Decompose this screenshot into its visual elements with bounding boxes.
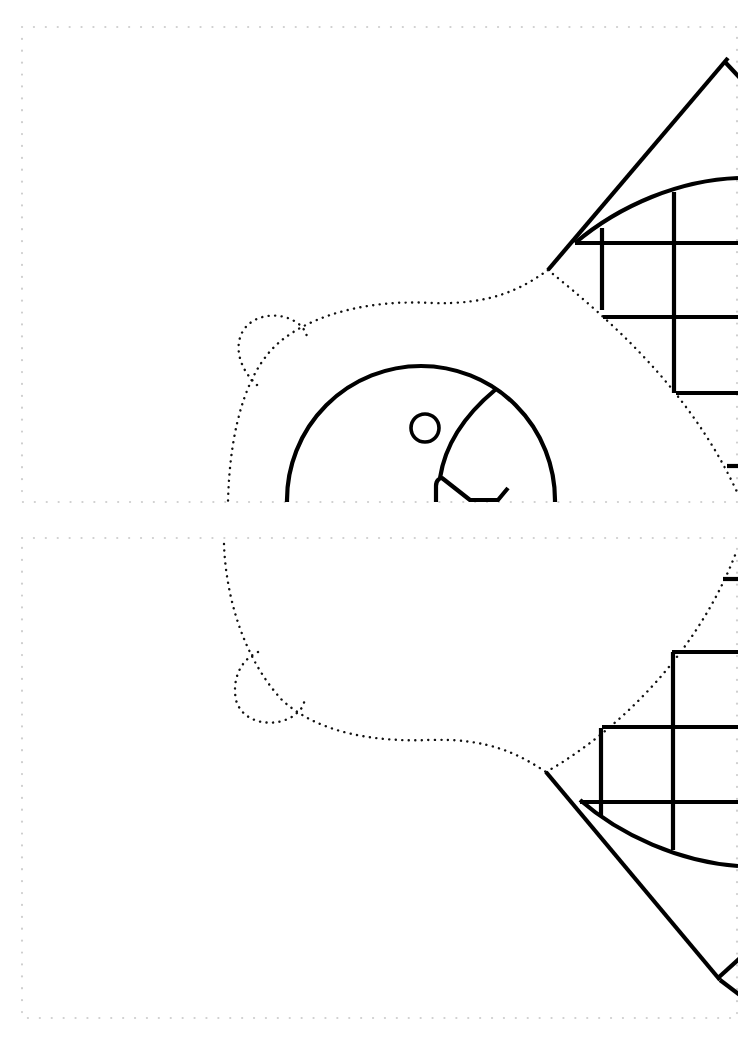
gill-arc: [440, 390, 495, 478]
top-panel-border: [22, 27, 737, 502]
body-cut-line-bottom: [546, 550, 737, 772]
bottom-panel: [22, 538, 740, 1018]
mouth-line: [436, 478, 508, 502]
top-panel: [22, 27, 740, 634]
craft-template-sheet: [0, 0, 754, 1054]
fin-arc-bottom: [580, 800, 738, 866]
scale-grid-top: [575, 192, 738, 466]
body-cut-line: [548, 270, 737, 492]
fin-diagonal-line: [548, 58, 728, 270]
ear-cut-line: [239, 316, 307, 385]
scale-grid-bottom: [580, 579, 738, 850]
face-circle: [287, 366, 555, 634]
fin-tick-mark-bottom-2: [720, 980, 740, 995]
head-cut-line: [228, 270, 548, 502]
head-cut-line-bottom: [224, 544, 546, 772]
ear-cut-line-bottom: [235, 652, 304, 723]
eye-icon: [411, 414, 439, 442]
bottom-panel-border: [22, 538, 737, 1018]
fin-tick-mark-bottom: [718, 958, 740, 978]
fin-tick-mark: [725, 62, 740, 78]
